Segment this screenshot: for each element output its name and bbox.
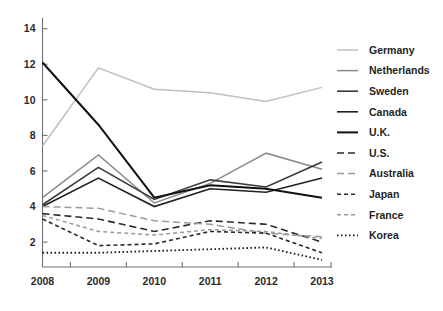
series-layer [43,62,323,259]
y-axis-tick-label: 8 [30,129,36,141]
x-axis-tick-label: 2008 [31,275,55,287]
y-axis-tick-label: 12 [24,58,36,70]
x-axis-tick-label: 2012 [254,275,278,287]
x-axis-tick-label: 2011 [199,275,222,287]
legend-item-label: Germany [369,44,415,56]
y-axis: 2468101214 [24,18,48,267]
x-axis-tick-label: 2010 [143,275,167,287]
series-line [43,247,323,259]
series-line [43,68,323,146]
legend: GermanyNetherlandsSwedenCanadaU.K.U.S.Au… [337,44,430,241]
line-chart: 2468101214 200820092010201120122013 Germ… [0,0,443,311]
y-axis-tick-label: 14 [24,22,36,34]
y-axis-tick-label: 6 [30,165,36,177]
x-axis-tick-label: 2013 [310,275,334,287]
y-axis-tick-label: 10 [24,94,36,106]
legend-item-label: Japan [369,188,399,200]
series-line [43,219,323,253]
y-axis-tick-label: 4 [30,200,36,212]
legend-item-label: Australia [369,167,414,179]
x-axis-tick-label: 2009 [87,275,111,287]
x-axis: 200820092010201120122013 [31,262,334,287]
legend-item-label: Canada [369,106,407,118]
legend-item-label: France [369,209,404,221]
chart-canvas: 2468101214 200820092010201120122013 Germ… [0,0,443,311]
series-line [43,153,323,203]
legend-item-label: Korea [369,229,399,241]
legend-item-label: Netherlands [369,64,430,76]
legend-item-label: U.K. [369,126,390,138]
series-line [43,215,323,238]
legend-item-label: U.S. [369,147,390,159]
legend-item-label: Sweden [369,85,409,97]
y-axis-tick-label: 2 [30,236,36,248]
